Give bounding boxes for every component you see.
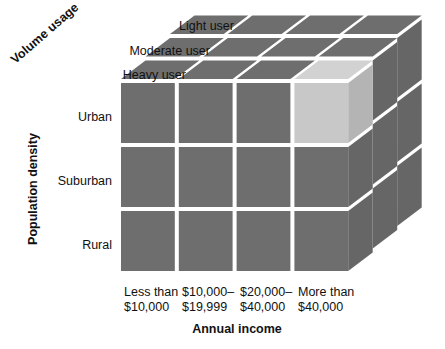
row-label-urban: Urban bbox=[0, 110, 112, 124]
column-label-line1: $20,000– bbox=[240, 285, 300, 300]
column-label-line1: $10,000– bbox=[182, 285, 242, 300]
figure-canvas: Volume usage Heavy user Moderate user Li… bbox=[0, 0, 445, 349]
depth-label-heavy-user: Heavy user bbox=[0, 68, 186, 82]
axis-title-annual-income: Annual income bbox=[121, 322, 353, 336]
cube-front-facet bbox=[121, 83, 175, 143]
cube-side-facet bbox=[348, 65, 373, 144]
depth-label-moderate-user: Moderate user bbox=[0, 44, 210, 58]
cube-front-facet bbox=[179, 147, 233, 207]
column-label-less-than-10000: Less than $10,000 bbox=[124, 285, 184, 315]
cube-front-facet bbox=[237, 147, 291, 207]
cube-front-facet bbox=[294, 211, 348, 271]
cube-side-facet bbox=[397, 84, 422, 163]
cube-side-facet bbox=[397, 20, 422, 99]
column-label-10000-19999: $10,000– $19,999 bbox=[182, 285, 242, 315]
cube-side-facet bbox=[348, 129, 373, 208]
row-label-suburban: Suburban bbox=[0, 174, 112, 188]
column-label-20000-40000: $20,000– $40,000 bbox=[240, 285, 300, 315]
row-label-rural: Rural bbox=[0, 238, 112, 252]
cube-front-facet bbox=[237, 211, 291, 271]
depth-label-light-user: Light user bbox=[0, 19, 234, 33]
cube-side-facet bbox=[373, 106, 398, 185]
column-label-line2: $40,000 bbox=[298, 300, 358, 315]
column-label-more-than-40000: More than $40,000 bbox=[298, 285, 358, 315]
cube-front-facet bbox=[179, 211, 233, 271]
column-label-line1: Less than bbox=[124, 285, 184, 300]
column-label-line1: More than bbox=[298, 285, 358, 300]
cube-side-facet bbox=[373, 170, 398, 249]
column-label-line2: $40,000 bbox=[240, 300, 300, 315]
cube-front-facet bbox=[121, 211, 175, 271]
cube-front-facet bbox=[237, 83, 291, 143]
cube-front-facet-highlighted bbox=[294, 83, 348, 143]
column-label-line2: $19,999 bbox=[182, 300, 242, 315]
cube-side-facet bbox=[373, 42, 398, 121]
column-label-line2: $10,000 bbox=[124, 300, 184, 315]
cube-side-facet bbox=[348, 193, 373, 272]
cube-front-facet bbox=[121, 147, 175, 207]
cube-front-facet bbox=[179, 83, 233, 143]
cube-side-facet bbox=[397, 148, 422, 227]
cube-front-facet bbox=[294, 147, 348, 207]
